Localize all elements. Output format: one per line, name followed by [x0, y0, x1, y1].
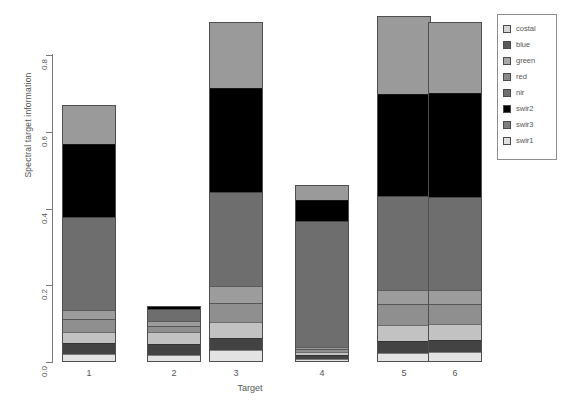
bar-segment[interactable] — [377, 16, 431, 94]
bar-segment[interactable] — [377, 353, 431, 362]
bar-stack[interactable] — [428, 22, 482, 362]
legend-label: blue — [516, 41, 530, 49]
legend-swatch-icon — [503, 137, 511, 145]
legend-item[interactable]: blue — [503, 37, 552, 53]
legend-label: nir — [516, 89, 524, 97]
bar-segment[interactable] — [147, 321, 201, 326]
y-tick-label: 0.8 — [40, 54, 49, 76]
bar-stack[interactable] — [295, 185, 349, 362]
y-tick-label: 0.0 — [40, 361, 49, 383]
legend-swatch-icon — [503, 41, 511, 49]
bar-segment[interactable] — [209, 303, 263, 323]
legend-swatch-icon — [503, 25, 511, 33]
bar-segment[interactable] — [295, 359, 349, 362]
bar-segment[interactable] — [147, 309, 201, 321]
bar-segment[interactable] — [428, 352, 482, 362]
legend-item[interactable]: swir3 — [503, 117, 552, 133]
legend-label: green — [516, 57, 535, 65]
bar-segment[interactable] — [428, 197, 482, 290]
bar-segment[interactable] — [377, 196, 431, 290]
bar-segment[interactable] — [295, 355, 349, 358]
bar-stack[interactable] — [147, 306, 201, 362]
bar-segment[interactable] — [428, 304, 482, 323]
bar-segment[interactable] — [62, 217, 116, 310]
y-tick-label: 0.4 — [40, 207, 49, 229]
bar-segment[interactable] — [295, 221, 349, 348]
bar-segment[interactable] — [428, 324, 482, 340]
legend-item[interactable]: green — [503, 53, 552, 69]
bar-segment[interactable] — [147, 344, 201, 356]
bar-segment[interactable] — [428, 340, 482, 352]
bar-segment[interactable] — [147, 306, 201, 309]
x-tick-label: 4 — [302, 368, 342, 378]
legend-label: swir1 — [516, 137, 534, 145]
y-axis-line — [52, 54, 53, 363]
legend: costalbluegreenrednirswir2swir3swir1 — [497, 14, 557, 160]
x-tick-label: 2 — [154, 368, 194, 378]
bar-segment[interactable] — [62, 310, 116, 319]
legend-label: costal — [516, 25, 536, 33]
bar-segment[interactable] — [428, 290, 482, 305]
x-tick-label: 6 — [435, 368, 475, 378]
bar-segment[interactable] — [209, 350, 263, 362]
legend-swatch-icon — [503, 57, 511, 65]
bar-segment[interactable] — [209, 322, 263, 338]
bar-segment[interactable] — [377, 290, 431, 305]
bar-segment[interactable] — [377, 94, 431, 196]
bar-segment[interactable] — [428, 93, 482, 197]
bar-segment[interactable] — [295, 185, 349, 200]
bar-segment[interactable] — [377, 325, 431, 341]
bar-segment[interactable] — [209, 338, 263, 350]
legend-swatch-icon — [503, 73, 511, 81]
stacked-bar-chart: Spectral target information Target 0.00.… — [0, 0, 563, 414]
y-axis-label: Spectral target information — [23, 45, 33, 205]
legend-swatch-icon — [503, 121, 511, 129]
legend-item[interactable]: swir1 — [503, 133, 552, 149]
bar-segment[interactable] — [147, 355, 201, 362]
bar-stack[interactable] — [62, 105, 116, 362]
bar-segment[interactable] — [62, 332, 116, 344]
bar-segment[interactable] — [62, 144, 116, 217]
bar-segment[interactable] — [377, 304, 431, 324]
bar-segment[interactable] — [209, 192, 263, 287]
y-tick-label: 0.6 — [40, 130, 49, 152]
bar-segment[interactable] — [62, 343, 116, 354]
bar-segment[interactable] — [209, 88, 263, 192]
bar-segment[interactable] — [209, 286, 263, 302]
legend-item[interactable]: costal — [503, 21, 552, 37]
bar-segment[interactable] — [147, 326, 201, 332]
legend-label: swir2 — [516, 105, 534, 113]
bar-segment[interactable] — [295, 352, 349, 356]
bar-segment[interactable] — [295, 349, 349, 351]
bar-segment[interactable] — [62, 354, 116, 362]
bar-segment[interactable] — [295, 347, 349, 349]
x-tick-label: 1 — [69, 368, 109, 378]
bar-stack[interactable] — [377, 16, 431, 362]
bar-segment[interactable] — [147, 332, 201, 344]
legend-item[interactable]: nir — [503, 85, 552, 101]
bar-segment[interactable] — [62, 105, 116, 144]
y-tick-label: 0.2 — [40, 284, 49, 306]
legend-swatch-icon — [503, 105, 511, 113]
legend-swatch-icon — [503, 89, 511, 97]
legend-item[interactable]: swir2 — [503, 101, 552, 117]
bar-segment[interactable] — [377, 341, 431, 353]
x-axis-label: Target — [0, 383, 500, 393]
bar-segment[interactable] — [209, 22, 263, 88]
x-tick-label: 5 — [384, 368, 424, 378]
x-tick-label: 3 — [216, 368, 256, 378]
bar-segment[interactable] — [295, 200, 349, 221]
bar-segment[interactable] — [62, 319, 116, 332]
bar-stack[interactable] — [209, 22, 263, 362]
bar-segment[interactable] — [428, 22, 482, 93]
legend-label: swir3 — [516, 121, 534, 129]
legend-item[interactable]: red — [503, 69, 552, 85]
legend-label: red — [516, 73, 527, 81]
